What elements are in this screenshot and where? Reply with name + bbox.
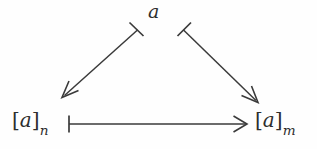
lower-right-node: [a]m xyxy=(255,110,295,135)
lower-right-bracket-open: [ xyxy=(255,108,263,132)
arrow-apex-to-lower-right xyxy=(178,23,259,103)
lower-left-base: a xyxy=(20,108,32,132)
apex-node-base: a xyxy=(148,0,159,22)
arrow-apex-to-lower-left xyxy=(62,23,144,98)
arrow-apex-to-lower-left-shaft xyxy=(65,30,138,96)
lower-right-subscript: m xyxy=(283,122,296,138)
lower-left-bracket-open: [ xyxy=(12,108,20,132)
lower-left-bracket-close: ] xyxy=(32,108,40,132)
arrow-apex-to-lower-right-shaft xyxy=(184,30,257,101)
arrow-apex-to-lower-right-tail-bar xyxy=(178,23,192,37)
lower-right-bracket-close: ] xyxy=(275,108,283,132)
commutative-diagram-figure: a [a]n [a]m xyxy=(0,0,317,149)
lower-left-subscript: n xyxy=(40,122,49,138)
arrow-apex-to-lower-left-tail-bar xyxy=(130,23,144,37)
arrow-lower-left-to-lower-right xyxy=(69,116,247,133)
apex-node: a xyxy=(148,2,159,21)
lower-left-node: [a]n xyxy=(12,110,48,135)
lower-right-base: a xyxy=(263,108,275,132)
